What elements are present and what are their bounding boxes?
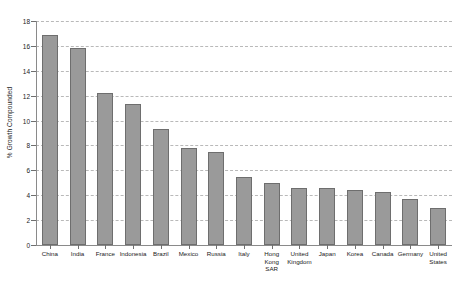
x-axis-tick [244, 245, 245, 249]
y-axis-tick-label: 16 [6, 42, 30, 49]
bar [153, 129, 169, 245]
bar-chart: % Growth Compounded 024681012141618 Chin… [0, 0, 462, 283]
x-axis-category-label: Japan [313, 250, 341, 258]
x-axis-category-label: China [36, 250, 64, 258]
bar [125, 104, 141, 245]
x-axis-tick [78, 245, 79, 249]
y-axis-tick-group: 024681012141618 [0, 0, 30, 283]
y-axis-tick [31, 145, 36, 146]
y-axis-tick-label: 4 [6, 192, 30, 199]
y-axis-tick-label: 0 [6, 242, 30, 249]
x-axis-tick [299, 245, 300, 249]
x-axis-tick [355, 245, 356, 249]
x-axis-category-label: Germany [397, 250, 425, 258]
x-axis-category-label: Italy [230, 250, 258, 258]
y-axis-tick-label: 12 [6, 92, 30, 99]
x-axis-tick [189, 245, 190, 249]
x-axis-category-labels: ChinaIndiaFranceIndonesiaBrazilMexicoRus… [36, 250, 452, 283]
x-axis-tick [410, 245, 411, 249]
bar [430, 208, 446, 245]
x-axis-category-label: Indonesia [119, 250, 147, 258]
bar [42, 35, 58, 245]
y-axis-tick-label: 6 [6, 167, 30, 174]
y-axis-tick [31, 245, 36, 246]
x-axis-tick [272, 245, 273, 249]
x-axis-category-label: Brazil [147, 250, 175, 258]
bar [97, 93, 113, 245]
y-axis-tick [31, 220, 36, 221]
x-axis-category-label: Mexico [175, 250, 203, 258]
x-axis-category-label: Russia [202, 250, 230, 258]
x-axis-category-label: Canada [369, 250, 397, 258]
y-axis-tick [31, 21, 36, 22]
y-axis-tick [31, 71, 36, 72]
x-axis-category-label: India [64, 250, 92, 258]
bar [402, 199, 418, 245]
bar [375, 192, 391, 246]
x-axis-tick [383, 245, 384, 249]
x-axis-tick [105, 245, 106, 249]
x-axis-category-label: Korea [341, 250, 369, 258]
x-axis-tick [438, 245, 439, 249]
y-axis-tick [31, 46, 36, 47]
y-axis-tick [31, 195, 36, 196]
x-axis-tick [133, 245, 134, 249]
x-axis-category-label: France [91, 250, 119, 258]
x-axis-category-label: United Kingdom [286, 250, 314, 265]
y-axis-tick [31, 96, 36, 97]
x-axis-tick [161, 245, 162, 249]
bar [70, 48, 86, 245]
bar [347, 190, 363, 245]
x-axis-category-label: United States [424, 250, 452, 265]
y-axis-tick-label: 14 [6, 67, 30, 74]
x-axis-category-label: Hong Kong SAR [258, 250, 286, 273]
bar [319, 188, 335, 245]
x-axis-tick [216, 245, 217, 249]
bar [236, 177, 252, 245]
bar [208, 152, 224, 245]
bars-layer [36, 21, 452, 245]
x-axis-tick [50, 245, 51, 249]
y-axis-tick-label: 18 [6, 18, 30, 25]
y-axis-tick [31, 121, 36, 122]
y-axis-tick-label: 2 [6, 217, 30, 224]
bar [181, 148, 197, 245]
y-axis-tick [31, 170, 36, 171]
bar [291, 188, 307, 245]
y-axis-tick-label: 10 [6, 117, 30, 124]
x-axis-tick [327, 245, 328, 249]
y-axis-tick-label: 8 [6, 142, 30, 149]
bar [264, 183, 280, 245]
